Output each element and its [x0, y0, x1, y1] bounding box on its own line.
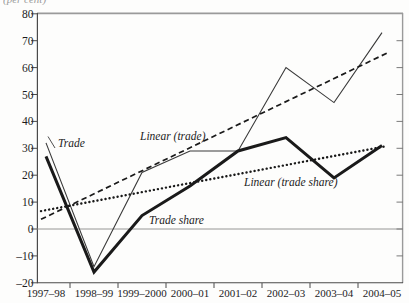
trade-label-leader-line [48, 137, 55, 149]
y-tick-label: 20 [22, 169, 34, 181]
x-tick-label: 2002–03 [267, 287, 306, 299]
trade-share-line [46, 138, 382, 273]
x-tick-label: 1998–99 [75, 287, 114, 299]
x-tick-label: 1997–98 [27, 287, 66, 299]
trade-share-series-label: Trade share [149, 214, 204, 226]
y-tick-label: 40 [22, 115, 34, 127]
line-chart: 80706050403020100–10–20 1997–981998–9919… [0, 0, 409, 303]
x-axis-labels: 1997–981998–991999–20002000–012001–02200… [27, 287, 402, 299]
x-tick-label: 1999–2000 [117, 287, 167, 299]
y-tick-label: 30 [22, 142, 34, 154]
y-tick-label: 70 [22, 35, 34, 47]
y-tick-label: 10 [22, 196, 34, 208]
chart-figure: (per cent) 80706050403020100–10–20 1997–… [0, 0, 409, 303]
y-tick-label: –10 [15, 250, 34, 262]
linear-trade-share-series-label: Linear (trade share) [243, 176, 338, 189]
data-series [41, 33, 387, 272]
x-tick-label: 2004–05 [363, 287, 402, 299]
y-axis-labels: 80706050403020100–10–20 [15, 8, 34, 289]
y-tick-label: 0 [28, 223, 34, 235]
y-tick-label: 50 [22, 89, 34, 101]
x-tick-label: 2001–02 [219, 287, 258, 299]
linear-trade-series-label: Linear (trade) [139, 130, 206, 143]
x-tick-label: 2000–01 [171, 287, 210, 299]
linear-trade-line [41, 53, 387, 219]
y-tick-label: 80 [22, 8, 34, 20]
x-tick-label: 2003–04 [315, 287, 354, 299]
trade-series-label: Trade [58, 137, 85, 149]
trade-line [46, 33, 382, 267]
y-tick-label: 60 [22, 62, 34, 74]
